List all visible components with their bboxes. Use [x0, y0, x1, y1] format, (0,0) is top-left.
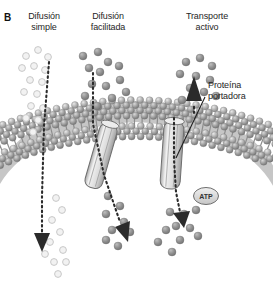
- solute-particle-light: [19, 65, 26, 72]
- solute-particle: [178, 96, 186, 104]
- lipid-head: [0, 121, 6, 128]
- lipid-head: [52, 121, 59, 128]
- solute-particle-light: [35, 117, 42, 124]
- lipid-head: [247, 131, 254, 138]
- lipid-head: [247, 142, 254, 149]
- atp-badge: ATP: [194, 188, 219, 205]
- solute-particle-light: [28, 103, 35, 110]
- atp-label: ATP: [199, 193, 213, 200]
- solute-particle: [186, 224, 194, 232]
- lipid-head: [235, 149, 242, 156]
- solute-particle-light: [57, 229, 64, 236]
- lipid-head: [78, 116, 85, 123]
- solute-particle: [94, 48, 102, 56]
- solute-particle: [102, 82, 110, 90]
- lipid-head: [9, 134, 16, 141]
- lipid-head: [96, 114, 103, 121]
- lipid-head: [48, 144, 55, 151]
- solute-particle: [85, 64, 93, 72]
- solute-particle: [162, 226, 170, 234]
- lipid-head: [128, 133, 135, 140]
- lipid-head: [155, 134, 162, 141]
- solute-particle-light: [31, 63, 38, 70]
- lipid-head: [61, 119, 68, 126]
- solute-particle: [79, 52, 87, 60]
- solute-particle-light: [27, 77, 34, 84]
- lipid-head: [229, 126, 236, 133]
- solute-particle-light: [60, 247, 67, 254]
- lipid-head: [209, 142, 216, 149]
- lipid-head: [57, 142, 64, 149]
- lipid-head: [264, 149, 271, 156]
- lipid-head: [3, 131, 10, 138]
- solute-particle: [200, 88, 208, 96]
- solute-particle: [122, 88, 130, 96]
- lipid-head: [263, 137, 270, 144]
- solute-particle-light: [23, 115, 30, 122]
- lipid-head: [249, 148, 256, 155]
- lipid-head: [10, 145, 17, 152]
- lipid-head: [226, 146, 233, 153]
- lipid-head: [258, 152, 265, 159]
- lipid-head: [8, 118, 15, 125]
- lipid-head: [200, 140, 207, 147]
- solute-particle: [208, 62, 216, 70]
- lipid-head: [191, 138, 198, 145]
- carrier-protein: [160, 117, 185, 190]
- solute-particle: [116, 202, 124, 210]
- solute-particle: [115, 62, 123, 70]
- lipid-head: [238, 139, 245, 146]
- lipid-head: [19, 142, 26, 149]
- solute-particles: [19, 47, 220, 278]
- lipid-head: [5, 158, 12, 165]
- lipid-head: [261, 131, 268, 138]
- solute-particle: [196, 54, 204, 62]
- lipid-head: [18, 131, 25, 138]
- solute-particle: [166, 208, 174, 216]
- solute-particle-light: [59, 207, 66, 214]
- lipid-head: [70, 118, 77, 125]
- lipid-head: [265, 121, 272, 128]
- solute-particle: [154, 238, 162, 246]
- lipid-head: [221, 123, 228, 130]
- solute-particle-light: [63, 259, 70, 266]
- solute-particle-light: [23, 53, 30, 60]
- solute-particle: [168, 248, 176, 256]
- solute-particle-light: [39, 79, 46, 86]
- solute-particle: [108, 226, 116, 234]
- solute-particle: [96, 68, 104, 76]
- lipid-head: [186, 116, 193, 123]
- solute-particle-light: [55, 271, 62, 278]
- solute-particle-light: [42, 251, 49, 258]
- solute-particle: [102, 210, 110, 218]
- membrane-transport-figure: ATP B Difusión simple Difusión facilitad…: [0, 0, 273, 284]
- solute-particle-light: [35, 47, 42, 54]
- lipid-head: [243, 152, 250, 159]
- solute-particle-light: [51, 259, 58, 266]
- lipid-bilayer: [0, 97, 273, 196]
- lipid-head: [137, 133, 144, 140]
- lipid-head: [27, 139, 34, 146]
- solute-particle-light: [45, 54, 52, 61]
- solute-particle-light: [53, 195, 60, 202]
- lipid-head: [259, 124, 266, 131]
- panel-letter: B: [4, 12, 11, 23]
- lipid-head: [119, 133, 126, 140]
- lipid-head: [212, 121, 219, 128]
- solute-particle-light: [34, 91, 41, 98]
- lipid-head: [255, 134, 262, 141]
- solute-particle: [104, 58, 112, 66]
- lipid-head: [146, 133, 153, 140]
- lipid-head: [247, 115, 254, 122]
- solute-particle: [102, 236, 110, 244]
- lipid-head: [150, 113, 157, 120]
- label-carrier-protein: Proteína portadora: [208, 80, 270, 101]
- lipid-head: [22, 152, 29, 159]
- solute-particle: [108, 94, 116, 102]
- lipid-head: [238, 128, 245, 135]
- solute-particle: [116, 76, 124, 84]
- lipid-head: [14, 121, 21, 128]
- solute-particle-light: [49, 217, 56, 224]
- solute-particle: [93, 102, 101, 110]
- lipid-head: [5, 125, 12, 132]
